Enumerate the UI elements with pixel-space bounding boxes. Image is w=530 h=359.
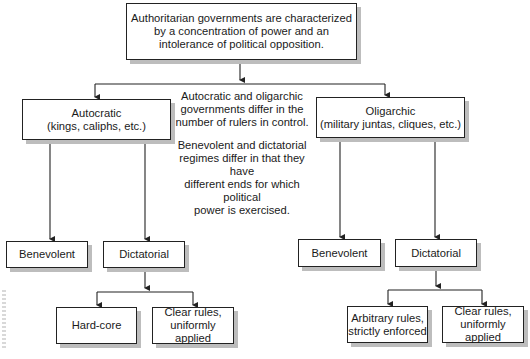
arbitrary-rules-line-1: Arbitrary rules,: [348, 312, 426, 325]
oligarchic-box: Oligarchic (military juntas, cliques, et…: [316, 97, 465, 138]
autocratic-dictatorial-box: Dictatorial: [103, 241, 185, 268]
hardcore-box: Hard-core: [56, 307, 137, 344]
oligarchic-subtitle: (military juntas, cliques, etc.): [320, 118, 461, 131]
autocratic-title: Autocratic: [47, 107, 146, 120]
root-line-1: Authoritarian governments are characteri…: [131, 12, 352, 25]
note-ends-line-1: Benevolent and dictatorial: [170, 139, 314, 152]
autocratic-clear-rules-line-1: Clear rules,: [153, 306, 233, 319]
note-ends-line-2: regimes differ in that they have: [170, 152, 314, 178]
note-ends: Benevolent and dictatorial regimes diffe…: [170, 139, 314, 217]
oligarchic-benevolent-label: Benevolent: [312, 247, 368, 260]
arbitrary-rules-box: Arbitrary rules, strictly enforced: [347, 306, 428, 343]
autocratic-subtitle: (kings, caliphs, etc.): [47, 120, 146, 133]
oligarchic-clear-rules-box: Clear rules, uniformly applied: [442, 306, 524, 343]
oligarchic-benevolent-box: Benevolent: [298, 239, 381, 267]
autocratic-clear-rules-line-2: uniformly applied: [153, 319, 233, 345]
autocratic-dictatorial-label: Dictatorial: [119, 248, 169, 261]
autocratic-benevolent-label: Benevolent: [19, 248, 75, 261]
autocratic-box: Autocratic (kings, caliphs, etc.): [22, 99, 171, 140]
autocratic-clear-rules-box: Clear rules, uniformly applied: [152, 307, 234, 344]
root-line-2: by a concentration of power and an: [131, 25, 352, 38]
note-rulers-line-3: number of rulers in control.: [175, 116, 309, 129]
root-box: Authoritarian governments are characteri…: [126, 3, 357, 60]
oligarchic-dictatorial-box: Dictatorial: [395, 239, 477, 267]
note-rulers-line-1: Autocratic and oligarchic: [175, 90, 309, 103]
note-rulers: Autocratic and oligarchic governments di…: [175, 90, 309, 129]
oligarchic-dictatorial-label: Dictatorial: [411, 247, 461, 260]
arbitrary-rules-line-2: strictly enforced: [348, 325, 426, 338]
hardcore-label: Hard-core: [72, 319, 122, 332]
note-rulers-line-2: governments differ in the: [175, 103, 309, 116]
side-credit-mark: [2, 290, 6, 350]
root-line-3: intolerance of political opposition.: [131, 38, 352, 51]
note-ends-line-4: power is exercised.: [170, 204, 314, 217]
note-ends-line-3: different ends for which political: [170, 178, 314, 204]
autocratic-benevolent-box: Benevolent: [6, 241, 88, 268]
oligarchic-clear-rules-line-2: uniformly applied: [443, 318, 523, 344]
oligarchic-clear-rules-line-1: Clear rules,: [443, 305, 523, 318]
oligarchic-title: Oligarchic: [320, 105, 461, 118]
